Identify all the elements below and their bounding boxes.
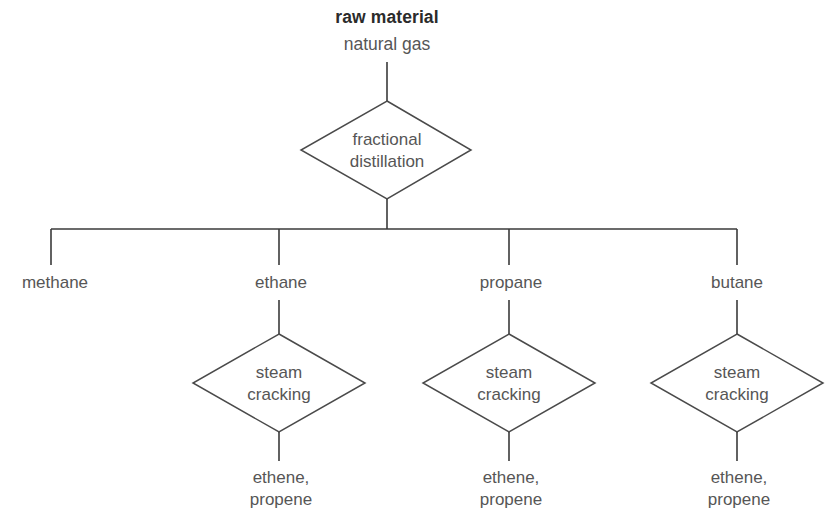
fractional-distillation-line2: distillation: [350, 152, 425, 171]
steam-cracking-1-line1: steam: [256, 363, 302, 382]
source-label-natural-gas: natural gas: [344, 34, 431, 54]
raw-material-title: raw material: [335, 7, 438, 27]
fraction-label-ethane: ethane: [255, 273, 307, 292]
fraction-label-propane: propane: [480, 273, 542, 292]
node-steam-cracking-2: [423, 334, 595, 432]
flowchart-diagram: raw material natural gas fractional dist…: [0, 0, 834, 522]
node-steam-cracking-1: [193, 334, 365, 432]
steam-cracking-3-line1: steam: [714, 363, 760, 382]
fractional-distillation-line1: fractional: [353, 130, 422, 149]
steam-cracking-2-line1: steam: [486, 363, 532, 382]
output-1-line1: ethene,: [253, 468, 310, 487]
steam-cracking-1-line2: cracking: [247, 385, 310, 404]
fraction-label-butane: butane: [711, 273, 763, 292]
node-steam-cracking-3: [651, 334, 823, 432]
flowchart-canvas: raw material natural gas fractional dist…: [0, 0, 834, 522]
output-2-line1: ethene,: [483, 468, 540, 487]
node-fractional-distillation: [301, 101, 471, 199]
steam-cracking-2-line2: cracking: [477, 385, 540, 404]
fraction-label-methane: methane: [22, 273, 88, 292]
output-1-line2: propene: [250, 490, 312, 509]
output-3-line2: propene: [708, 490, 770, 509]
output-2-line2: propene: [480, 490, 542, 509]
output-3-line1: ethene,: [711, 468, 768, 487]
steam-cracking-3-line2: cracking: [705, 385, 768, 404]
